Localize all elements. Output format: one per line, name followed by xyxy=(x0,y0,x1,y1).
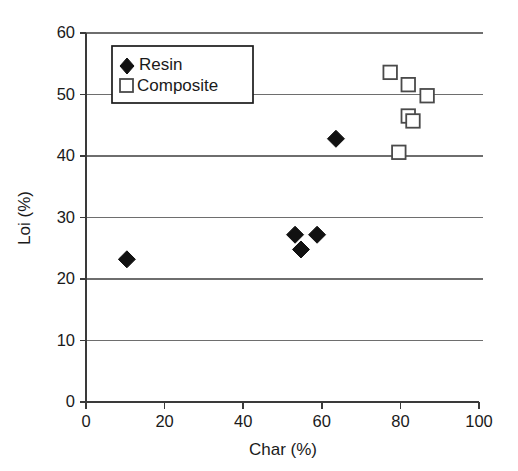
data-point-resin-3 xyxy=(309,226,326,243)
y-tick-label-40: 40 xyxy=(57,146,75,164)
y-tick-label-50: 50 xyxy=(57,85,75,103)
y-tick-label-30: 30 xyxy=(57,208,75,226)
scatter-chart: 0102030405060 020406080100 Resin Composi… xyxy=(0,0,518,471)
x-tick-group: 020406080100 xyxy=(81,402,492,430)
data-point-composite-5 xyxy=(392,146,406,160)
y-tick-label-10: 10 xyxy=(57,331,75,349)
data-point-composite-2 xyxy=(420,89,434,103)
legend-label-resin: Resin xyxy=(139,55,182,74)
legend: Resin Composite xyxy=(112,46,253,103)
data-point-resin-0 xyxy=(118,251,135,268)
plot-canvas: 0102030405060 020406080100 Resin Composi… xyxy=(0,0,518,471)
x-tick-label-0: 0 xyxy=(81,412,90,430)
data-point-composite-4 xyxy=(406,114,420,128)
x-tick-label-80: 80 xyxy=(391,412,409,430)
x-tick-label-40: 40 xyxy=(234,412,252,430)
resin-points-group xyxy=(118,130,344,268)
x-tick-label-20: 20 xyxy=(155,412,173,430)
x-tick-label-60: 60 xyxy=(313,412,331,430)
x-axis-title: Char (%) xyxy=(249,440,317,459)
data-point-composite-0 xyxy=(383,66,397,80)
y-axis-title: Loi (%) xyxy=(15,191,34,245)
data-point-composite-1 xyxy=(402,78,416,92)
x-tick-label-100: 100 xyxy=(465,412,493,430)
legend-label-composite: Composite xyxy=(137,76,218,95)
y-tick-label-60: 60 xyxy=(57,23,75,41)
y-tick-label-20: 20 xyxy=(57,269,75,287)
data-point-resin-4 xyxy=(327,130,344,147)
legend-marker-composite-icon xyxy=(120,79,133,92)
y-tick-label-0: 0 xyxy=(66,392,75,410)
y-tick-group: 0102030405060 xyxy=(57,23,86,410)
composite-points-group xyxy=(383,66,433,159)
